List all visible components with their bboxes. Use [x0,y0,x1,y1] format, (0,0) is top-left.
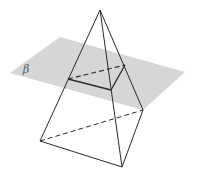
base-edge-hidden [40,110,143,141]
base-edge-left-front [40,141,122,167]
plane-label: β [23,63,29,76]
base-edge-front-right [122,110,143,167]
diagram-canvas [0,0,197,179]
pyramid-section-diagram: β [0,0,197,179]
plane-beta [10,37,185,110]
